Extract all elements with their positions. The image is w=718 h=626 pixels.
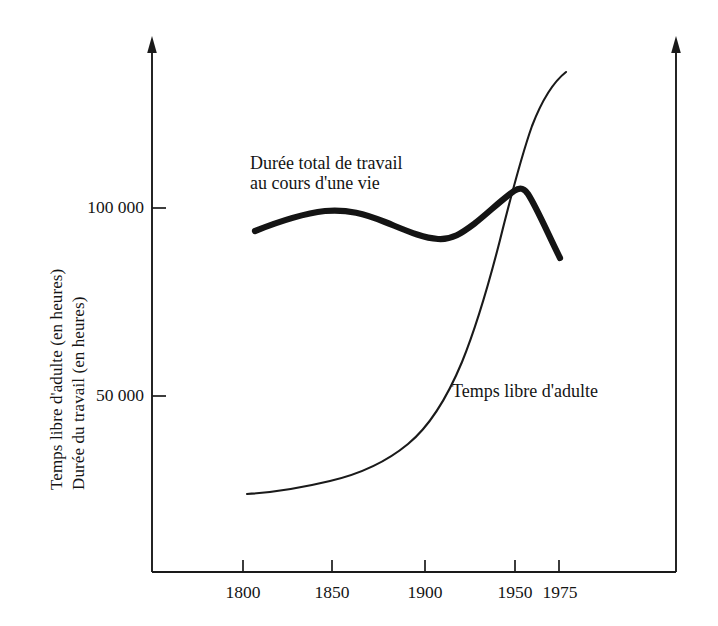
y-axis	[147, 36, 157, 572]
x-tick-marks	[243, 560, 559, 572]
series-line-temps-libre-adulte	[247, 72, 566, 494]
y-tick-marks	[152, 208, 166, 396]
series-line-duree-total-travail	[255, 189, 560, 258]
secondary-y-axis	[671, 36, 681, 572]
secondary-y-axis-arrowhead-icon	[671, 36, 681, 53]
chart-plot-area	[0, 0, 718, 626]
y-axis-arrowhead-icon	[147, 36, 157, 53]
chart-figure: Temps libre d'adulte (en heures) Durée d…	[0, 0, 718, 626]
